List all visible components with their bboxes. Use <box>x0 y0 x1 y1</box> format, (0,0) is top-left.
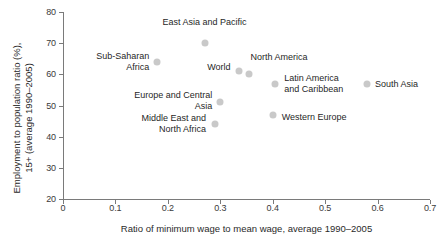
data-point-latin-america-and-caribbean <box>272 80 279 87</box>
point-label-europe-and-central-asia: Europe and CentralAsia <box>134 90 212 112</box>
point-label-world: World <box>207 62 230 73</box>
point-label-line: and Caribbean <box>284 84 343 95</box>
point-label-latin-america-and-caribbean: Latin Americaand Caribbean <box>284 73 343 95</box>
point-label-western-europe: Western Europe <box>282 111 347 122</box>
point-label-north-america: North America <box>251 52 308 63</box>
scatter-chart: 20304050607080 00.10.20.30.40.50.60.7 Em… <box>0 0 447 249</box>
point-label-line: South Asia <box>375 78 418 89</box>
point-label-east-asia-and-pacific: East Asia and Pacific <box>163 17 247 28</box>
data-point-east-asia-and-pacific <box>201 40 208 47</box>
data-point-south-asia <box>364 80 371 87</box>
point-label-line: East Asia and Pacific <box>163 17 247 28</box>
point-label-line: North Africa <box>141 124 206 135</box>
point-label-line: Sub-Saharan <box>96 51 149 62</box>
data-point-western-europe <box>269 111 276 118</box>
point-label-line: Africa <box>96 62 149 73</box>
plot-area: East Asia and PacificSub-SaharanAfricaWo… <box>0 0 447 249</box>
point-label-line: Western Europe <box>282 111 347 122</box>
point-label-line: North America <box>251 52 308 63</box>
point-label-line: Europe and Central <box>134 90 212 101</box>
point-label-line: Latin America <box>284 73 343 84</box>
point-label-line: Middle East and <box>141 113 206 124</box>
data-point-sub-saharan-africa <box>154 58 161 65</box>
data-point-north-america <box>246 71 253 78</box>
point-label-middle-east-and-north-africa: Middle East andNorth Africa <box>141 113 206 135</box>
point-label-south-asia: South Asia <box>375 78 418 89</box>
data-point-europe-and-central-asia <box>217 99 224 106</box>
data-point-world <box>235 68 242 75</box>
point-label-line: Asia <box>134 101 212 112</box>
point-label-sub-saharan-africa: Sub-SaharanAfrica <box>96 51 149 73</box>
point-label-line: World <box>207 62 230 73</box>
data-point-middle-east-and-north-africa <box>212 121 219 128</box>
